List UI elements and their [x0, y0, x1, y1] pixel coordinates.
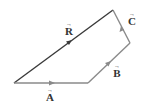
svg-text:→: → [114, 63, 120, 69]
svg-text:→: → [129, 11, 135, 17]
vector-a-arrowhead-icon [49, 81, 55, 86]
label-b: B → [113, 63, 121, 79]
vector-r-line [14, 10, 113, 83]
label-c: C → [128, 11, 136, 27]
vector-diagram: A → B → C → R → [0, 0, 148, 107]
label-r: R → [65, 21, 74, 37]
svg-text:→: → [66, 21, 72, 27]
svg-text:→: → [47, 87, 53, 93]
label-a: A → [46, 87, 54, 103]
